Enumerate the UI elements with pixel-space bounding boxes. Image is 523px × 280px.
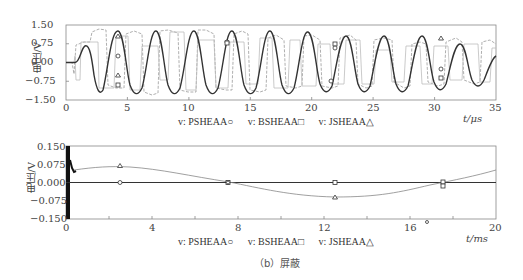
bottom-x-axis-label: t/ms [466,233,488,244]
top-xtick: 30 [428,102,441,113]
top-x-axis-label: t/μs [463,113,482,124]
bottom-xtick: 20 [489,222,502,233]
top-ytick: 1.50 [31,19,53,30]
top-xtick: 35 [489,102,502,113]
top-xtick: 5 [124,102,130,113]
top-plot-frame [66,25,496,100]
bottom-x-ticks [109,216,453,219]
bottom-ytick: −0.075 [30,195,67,206]
bottom-xtick: 0 [63,222,69,233]
top-xtick: 20 [305,102,318,113]
legend-jsheaa: v: JSHEAA△ [319,236,375,247]
legend-bsheaa: v: BSHEAA□ [248,116,304,127]
top-ytick: 0.00 [31,56,53,67]
top-x-ticks [127,97,434,100]
top-ytick: 0.75 [31,37,53,48]
top-legend: v: PSHEAA○ v: BSHEAA□ v: JSHEAA△ [178,116,386,127]
bottom-xtick: 12 [318,222,331,233]
top-ytick: −0.75 [25,75,56,86]
legend-psheaa: v: PSHEAA○ [178,236,233,247]
bottom-ytick: −0.150 [30,213,67,224]
bottom-xtick: 4 [149,222,155,233]
legend-jsheaa: v: JSHEAA△ [319,116,375,127]
bottom-ytick: 0.000 [37,177,66,188]
bottom-legend: v: PSHEAA○ v: BSHEAA□ v: JSHEAA△ [178,236,386,247]
legend-bsheaa: v: BSHEAA□ [248,236,304,247]
top-xtick: 0 [63,102,69,113]
legend-psheaa: v: PSHEAA○ [178,116,233,127]
top-xtick: 25 [367,102,380,113]
bottom-xtick: 8 [235,222,241,233]
bottom-markers [118,164,446,224]
top-xtick: 15 [244,102,257,113]
bottom-xtick: 16 [404,222,417,233]
bottom-ytick: 0.075 [37,159,66,170]
figure-caption: （b）屏蔽 [254,255,300,270]
bottom-series-jsheaa [74,167,496,197]
bottom-ytick: 0.150 [37,141,66,152]
top-ytick: −1.50 [25,94,56,105]
top-xtick: 10 [182,102,195,113]
